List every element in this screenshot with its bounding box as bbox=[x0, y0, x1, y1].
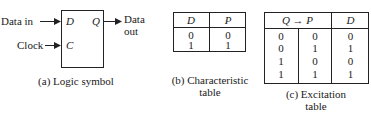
table-c-cell: 0 bbox=[264, 30, 298, 42]
table-c-header-rule bbox=[264, 28, 369, 29]
pin-q: Q bbox=[92, 15, 100, 27]
header-d: D bbox=[332, 14, 369, 26]
table-c-cell: 1 bbox=[299, 68, 331, 80]
table-c-cell: 1 bbox=[264, 68, 298, 80]
data-out-arrow-icon bbox=[115, 18, 123, 25]
caption-a: (a) Logic symbol bbox=[36, 75, 116, 87]
table-c-cell: 0 bbox=[299, 55, 331, 67]
table-c-cell: 1 bbox=[332, 68, 369, 80]
table-c-cell: 0 bbox=[299, 30, 331, 42]
table-c-cell: 0 bbox=[332, 30, 369, 42]
header-p: P bbox=[210, 14, 246, 26]
pin-d: D bbox=[66, 15, 74, 27]
caption-b-1: (b) Characteristic bbox=[160, 74, 260, 86]
table-b-cell: 1 bbox=[173, 39, 209, 51]
data-out-label-1: Data bbox=[124, 13, 145, 25]
caption-c-2: table bbox=[266, 100, 366, 112]
data-out-label-2: out bbox=[124, 25, 138, 37]
pin-c: C bbox=[66, 39, 73, 51]
clock-label: Clock bbox=[17, 39, 43, 51]
table-c-cell: 1 bbox=[264, 55, 298, 67]
table-c-cell: 0 bbox=[332, 55, 369, 67]
table-b-cell: 1 bbox=[210, 39, 246, 51]
data-in-label: Data in bbox=[1, 15, 33, 27]
table-c-cell: 1 bbox=[332, 42, 369, 54]
header-d: D bbox=[173, 14, 209, 26]
caption-b-2: table bbox=[160, 86, 260, 98]
header-q-to-p: Q → P bbox=[264, 14, 331, 26]
caption-c-1: (c) Excitation bbox=[266, 88, 366, 100]
table-c-cell: 1 bbox=[299, 42, 331, 54]
table-c-cell: 0 bbox=[264, 42, 298, 54]
